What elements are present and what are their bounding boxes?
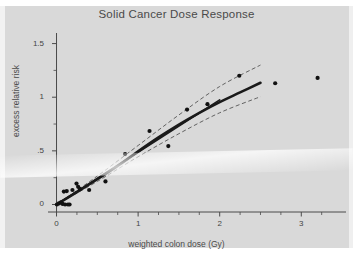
y-tick-label: 1.5 xyxy=(12,39,44,48)
data-point xyxy=(65,189,69,193)
data-point xyxy=(147,129,151,133)
y-tick-label: .5 xyxy=(12,146,44,155)
fit-lines xyxy=(57,83,261,205)
x-tick-label: 1 xyxy=(126,219,150,228)
data-point xyxy=(273,81,277,85)
axes-group xyxy=(48,33,346,217)
data-point xyxy=(123,152,127,156)
data-point xyxy=(185,107,189,111)
x-tick-label: 3 xyxy=(289,219,313,228)
chart-figure: Solid Cancer Dose Response excess relati… xyxy=(0,0,353,257)
data-point xyxy=(316,76,320,80)
data-point xyxy=(103,179,107,183)
data-point xyxy=(78,187,82,191)
confidence-bands xyxy=(57,65,261,204)
x-tick-label: 0 xyxy=(45,219,69,228)
data-point xyxy=(67,202,71,206)
confidence-bound xyxy=(57,65,261,204)
confidence-bound xyxy=(57,97,261,205)
fit-line xyxy=(57,83,261,205)
data-point xyxy=(166,144,170,148)
data-point xyxy=(237,74,241,78)
data-points xyxy=(55,74,320,207)
data-point xyxy=(205,102,209,106)
data-point xyxy=(87,188,91,192)
y-tick-label: 1 xyxy=(12,92,44,101)
data-point xyxy=(70,188,74,192)
y-tick-label: 0 xyxy=(12,199,44,208)
x-tick-label: 2 xyxy=(208,219,232,228)
